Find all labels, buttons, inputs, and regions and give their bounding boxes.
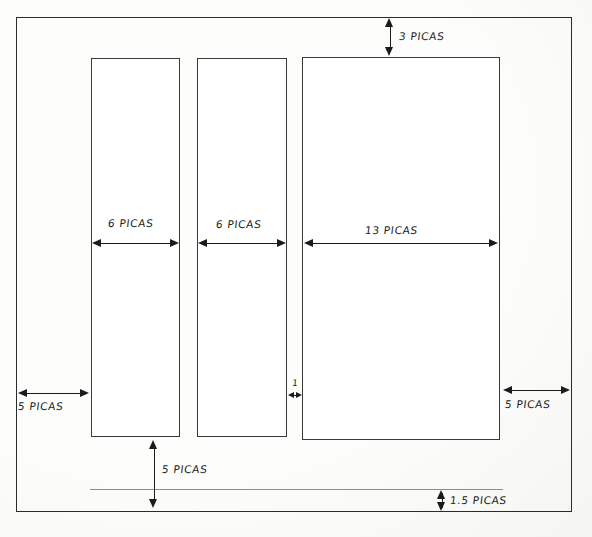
arrow-down-icon <box>437 502 445 511</box>
dimension-line <box>154 444 155 504</box>
dimension-top-margin <box>384 18 395 56</box>
dimension-label-footer-offset: 1.5 PICAS <box>449 494 507 506</box>
arrow-left-icon <box>18 389 27 397</box>
dimension-line <box>309 243 493 244</box>
dimension-label-gutter: 1 <box>291 378 298 388</box>
arrow-right-icon <box>277 239 286 247</box>
arrow-left-icon <box>92 239 101 247</box>
dimension-line <box>23 393 84 394</box>
diagram-canvas: 3 PICAS 6 PICAS 6 PICAS 13 PICAS 5 PICAS… <box>0 0 592 537</box>
arrow-left-icon <box>304 239 313 247</box>
arrow-down-icon <box>385 47 393 56</box>
arrow-down-icon <box>149 499 157 508</box>
arrow-right-icon <box>296 392 302 398</box>
arrow-left-icon <box>288 392 294 398</box>
dimension-column-3-width <box>304 234 498 252</box>
dimension-right-margin <box>503 381 570 399</box>
dimension-label-top-margin: 3 PICAS <box>398 30 445 42</box>
dimension-label-right-margin: 5 PICAS <box>504 398 551 410</box>
dimension-footer-offset <box>436 490 447 511</box>
arrow-up-icon <box>149 440 157 449</box>
dimension-bottom-margin <box>148 440 159 508</box>
dimension-label-left-margin: 5 PICAS <box>17 400 64 412</box>
dimension-column-1-width <box>92 234 179 252</box>
dimension-gutter <box>288 389 302 401</box>
arrow-right-icon <box>489 239 498 247</box>
arrow-up-icon <box>437 490 445 499</box>
arrow-right-icon <box>170 239 179 247</box>
dimension-label-bottom-margin: 5 PICAS <box>161 463 208 475</box>
dimension-label-column-3-width: 13 PICAS <box>364 224 418 236</box>
arrow-right-icon <box>80 389 89 397</box>
dimension-label-column-1-width: 6 PICAS <box>107 217 154 229</box>
arrow-left-icon <box>198 239 207 247</box>
dimension-label-column-2-width: 6 PICAS <box>215 218 262 230</box>
arrow-left-icon <box>503 386 512 394</box>
dimension-line <box>203 243 281 244</box>
dimension-column-2-width <box>198 234 286 252</box>
arrow-right-icon <box>561 386 570 394</box>
dimension-line <box>508 390 565 391</box>
dimension-line <box>97 243 174 244</box>
arrow-up-icon <box>385 18 393 27</box>
